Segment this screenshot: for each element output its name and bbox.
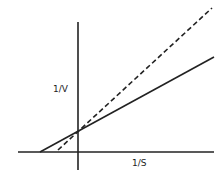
x-axis-label: 1/S <box>132 158 147 168</box>
lineweaver-burk-plot: 1/V 1/S <box>0 0 221 176</box>
solid-line <box>40 57 214 152</box>
y-axis-label: 1/V <box>53 84 69 94</box>
dashed-line <box>58 8 212 150</box>
